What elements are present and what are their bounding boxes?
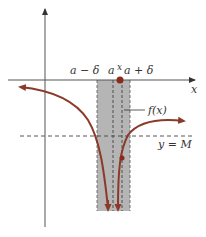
label-x-tick: x [117,62,122,72]
x-point [117,77,124,84]
delta-band [97,80,130,211]
limit-diagram: a − δ a x a + δ x f(x) y = M [0,0,206,237]
fx-point [120,156,125,161]
curve-left-branch [20,87,108,208]
label-a-plus-delta: a + δ [124,64,154,77]
label-a: a [108,64,115,77]
label-y-equals-m: y = M [157,138,192,151]
label-f-of-x: f(x) [147,104,167,117]
label-x-axis: x [191,83,198,96]
label-a-minus-delta: a − δ [70,64,100,77]
